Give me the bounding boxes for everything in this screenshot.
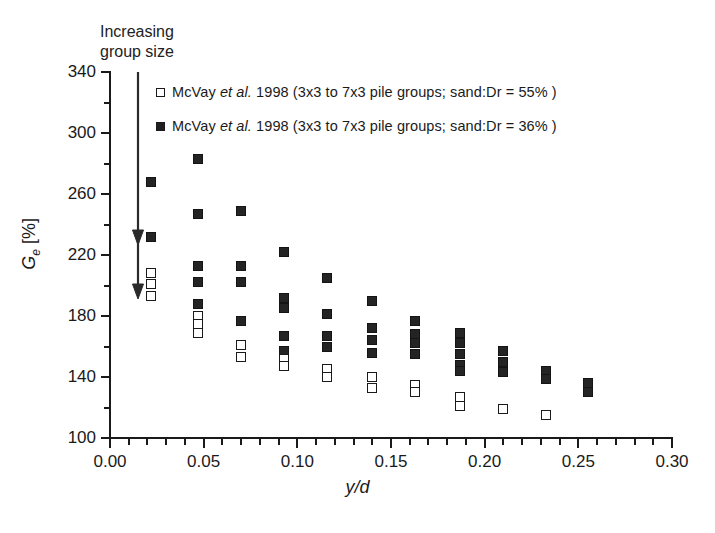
x-tick-minor <box>446 439 448 445</box>
data-point-filled-square <box>367 335 377 345</box>
x-tick-label: 0.05 <box>187 452 220 472</box>
x-tick-label: 0.20 <box>468 452 501 472</box>
data-point-open-square <box>146 279 156 289</box>
x-tick-minor <box>221 439 223 445</box>
data-point-open-square <box>498 404 508 414</box>
x-tick-minor <box>427 439 429 445</box>
data-point-filled-square <box>236 316 246 326</box>
data-point-filled-square <box>498 367 508 377</box>
x-tick-label: 0.25 <box>562 452 595 472</box>
data-point-open-square <box>410 387 420 397</box>
data-point-open-square <box>146 291 156 301</box>
data-point-filled-square <box>322 273 332 283</box>
data-point-filled-square <box>410 316 420 326</box>
y-tick-label: 260 <box>68 184 96 204</box>
x-tick-minor <box>259 439 261 445</box>
x-tick-minor <box>652 439 654 445</box>
data-point-filled-square <box>322 331 332 341</box>
data-point-filled-square <box>279 331 289 341</box>
y-axis-title: Ge [%] <box>19 199 43 289</box>
y-axis-ticks <box>0 0 110 533</box>
y-tick-label: 100 <box>68 428 96 448</box>
data-point-filled-square <box>455 349 465 359</box>
data-point-filled-square <box>498 346 508 356</box>
x-tick-minor <box>165 439 167 445</box>
data-point-filled-square <box>146 232 156 242</box>
y-tick-label: 180 <box>68 306 96 326</box>
x-tick-minor <box>409 439 411 445</box>
x-axis-title: y/d <box>0 477 715 498</box>
data-point-open-square <box>541 410 551 420</box>
x-tick-major <box>577 439 579 448</box>
data-point-open-square <box>455 401 465 411</box>
x-tick-minor <box>240 439 242 445</box>
data-point-filled-square <box>193 154 203 164</box>
x-tick-minor <box>146 439 148 445</box>
annotation-increasing-group-size: Increasing group size <box>100 22 174 62</box>
x-tick-major <box>109 439 111 448</box>
x-tick-minor <box>502 439 504 445</box>
x-tick-minor <box>315 439 317 445</box>
x-tick-minor <box>596 439 598 445</box>
x-tick-label: 0.00 <box>93 452 126 472</box>
x-tick-minor <box>371 439 373 445</box>
y-tick-label: 300 <box>68 123 96 143</box>
x-tick-label: 0.10 <box>281 452 314 472</box>
data-point-filled-square <box>367 348 377 358</box>
data-point-filled-square <box>541 374 551 384</box>
x-tick-minor <box>521 439 523 445</box>
x-tick-minor <box>353 439 355 445</box>
data-point-filled-square <box>498 357 508 367</box>
x-tick-minor <box>334 439 336 445</box>
data-point-open-square <box>236 352 246 362</box>
data-point-filled-square <box>410 349 420 359</box>
x-tick-minor <box>278 439 280 445</box>
x-tick-minor <box>615 439 617 445</box>
x-tick-minor <box>634 439 636 445</box>
data-point-filled-square <box>236 261 246 271</box>
data-point-filled-square <box>455 338 465 348</box>
data-point-filled-square <box>410 338 420 348</box>
annotation-line-1: Increasing <box>100 22 174 42</box>
y-tick-label: 140 <box>68 367 96 387</box>
data-point-open-square <box>322 372 332 382</box>
data-point-filled-square <box>279 303 289 313</box>
x-tick-major <box>203 439 205 448</box>
x-tick-label: 0.30 <box>655 452 688 472</box>
x-tick-minor <box>128 439 130 445</box>
x-tick-label: 0.15 <box>374 452 407 472</box>
x-tick-minor <box>184 439 186 445</box>
data-point-filled-square <box>279 293 289 303</box>
data-point-open-square <box>193 328 203 338</box>
data-point-filled-square <box>322 309 332 319</box>
data-point-open-square <box>367 383 377 393</box>
data-point-filled-square <box>455 366 465 376</box>
data-point-filled-square <box>146 177 156 187</box>
data-point-filled-square <box>193 277 203 287</box>
data-point-filled-square <box>322 342 332 352</box>
x-tick-major <box>296 439 298 448</box>
data-point-filled-square <box>455 328 465 338</box>
data-point-filled-square <box>367 296 377 306</box>
data-point-filled-square <box>193 299 203 309</box>
data-point-open-square <box>146 268 156 278</box>
x-tick-major <box>671 439 673 448</box>
data-point-filled-square <box>236 277 246 287</box>
data-point-filled-square <box>583 387 593 397</box>
annotation-line-2: group size <box>100 42 174 62</box>
data-point-filled-square <box>279 247 289 257</box>
y-axis-tick-labels: 100140180220260300340 <box>0 0 110 533</box>
data-point-open-square <box>236 340 246 350</box>
x-tick-minor <box>465 439 467 445</box>
data-point-filled-square <box>193 261 203 271</box>
y-tick-label: 340 <box>68 62 96 82</box>
x-tick-minor <box>540 439 542 445</box>
data-point-filled-square <box>367 323 377 333</box>
x-tick-major <box>390 439 392 448</box>
data-point-filled-square <box>236 206 246 216</box>
data-point-open-square <box>279 361 289 371</box>
y-tick-label: 220 <box>68 245 96 265</box>
x-tick-minor <box>559 439 561 445</box>
data-point-open-square <box>367 372 377 382</box>
data-point-filled-square <box>193 209 203 219</box>
